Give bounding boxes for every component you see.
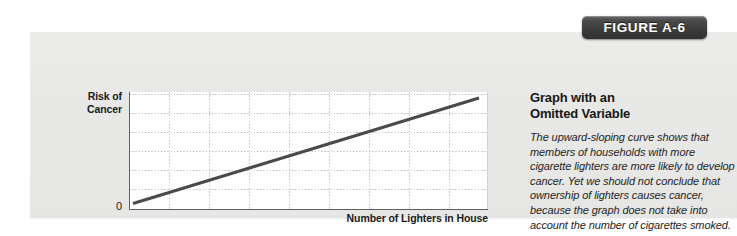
caption-heading: Graph with an Omitted Variable [530, 90, 735, 121]
figure-number-badge: FIGURE A-6 [582, 16, 707, 39]
figure-panel: Risk of Cancer 0 Number of Lighters in H… [30, 32, 737, 218]
figure-number-label: FIGURE A-6 [603, 21, 685, 35]
chart-plot-area [129, 92, 488, 210]
caption-body: The upward-sloping curve shows that memb… [530, 130, 735, 232]
y-axis-origin-label: 0 [96, 200, 122, 212]
line-chart-svg [129, 92, 488, 210]
y-axis-title: Risk of Cancer [50, 90, 122, 115]
x-axis-title: Number of Lighters in House [248, 212, 488, 224]
horizontal-gridlines [129, 95, 488, 190]
figure-caption: Graph with an Omitted Variable The upwar… [530, 90, 735, 232]
figure-page: Risk of Cancer 0 Number of Lighters in H… [0, 0, 737, 236]
